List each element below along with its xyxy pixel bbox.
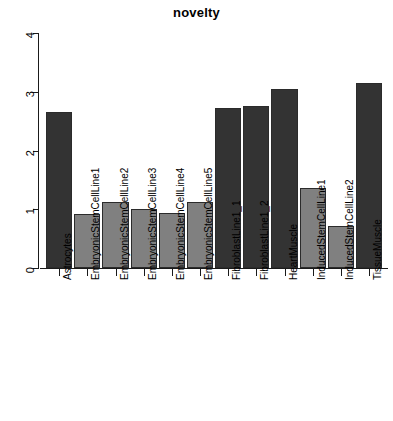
y-axis-tick-label-wrap: 2 <box>6 144 30 158</box>
x-axis-tick-label: FibroblastLine1_2 <box>260 201 270 281</box>
x-axis-tick <box>116 269 117 276</box>
x-axis-tick <box>228 269 229 276</box>
x-axis-tick-label: Astrocytes <box>63 233 73 280</box>
x-axis-tick-label: EmbryonicStemCellLine1 <box>91 168 101 280</box>
y-axis-tick-label: 0 <box>24 267 36 291</box>
x-axis-tick <box>369 269 370 276</box>
y-axis-tick-label-wrap: 0 <box>6 261 30 275</box>
x-axis-tick <box>59 269 60 276</box>
x-axis-tick-label: HeartMuscle <box>289 224 299 280</box>
y-axis-tick-label: 4 <box>24 32 36 56</box>
y-axis-tick-label-wrap: 1 <box>6 202 30 216</box>
x-axis-tick <box>144 269 145 276</box>
y-axis-tick-label: 3 <box>24 91 36 115</box>
x-axis-tick-label: InducedStemCellLine1 <box>317 179 327 280</box>
x-axis-tick <box>200 269 201 276</box>
x-axis-tick <box>87 269 88 276</box>
x-axis-tick-label: FibroblastLine1_1 <box>232 201 242 281</box>
x-axis-tick <box>313 269 314 276</box>
novelty-bar-chart: novelty 01234 AstrocytesEmbryonicStemCel… <box>0 0 393 421</box>
y-axis-tick-label-wrap: 4 <box>6 26 30 40</box>
x-axis-tick <box>172 269 173 276</box>
x-axis-tick-label: EmbryonicStemCellLine3 <box>148 168 158 280</box>
y-axis-tick-label: 2 <box>24 150 36 174</box>
x-axis-tick-label: InducedStemCellLine2 <box>345 179 355 280</box>
y-axis-tick-label: 1 <box>24 208 36 232</box>
x-axis-tick <box>341 269 342 276</box>
x-axis-tick-label: TissueMuscle <box>373 219 383 280</box>
y-axis-tick-label-wrap: 3 <box>6 85 30 99</box>
x-axis-tick-label: EmbryonicStemCellLine5 <box>204 168 214 280</box>
x-axis-tick-label: EmbryonicStemCellLine4 <box>176 168 186 280</box>
x-axis-tick-label: EmbryonicStemCellLine2 <box>120 168 130 280</box>
x-axis-tick <box>256 269 257 276</box>
x-axis-tick <box>285 269 286 276</box>
chart-title: novelty <box>0 5 393 20</box>
